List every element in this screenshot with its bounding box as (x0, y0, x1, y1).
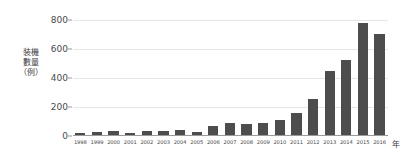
x-axis-tick-label: 2014 (338, 139, 355, 146)
bar (341, 60, 351, 135)
x-axis-tick-label: 2002 (139, 139, 156, 146)
bar-series (72, 20, 388, 135)
bar (225, 123, 235, 135)
x-axis-tick-label: 2003 (155, 139, 172, 146)
y-axis-tick-label: 600 (44, 44, 68, 54)
bar-slot (371, 20, 388, 135)
y-axis-tick-label: 800 (44, 15, 68, 25)
y-axis-tick-label: 0 (44, 131, 68, 141)
bar (325, 71, 335, 135)
bar-slot (89, 20, 106, 135)
bar (374, 34, 384, 135)
y-axis-line (72, 20, 73, 136)
y-axis-tick-label: 400 (44, 73, 68, 83)
y-axis-tick-labels: 0200400600800 (44, 0, 68, 160)
bar-slot (338, 20, 355, 135)
x-axis-tick-label: 2012 (305, 139, 322, 146)
y-axis-title: 装機 數量 （例） (14, 48, 48, 78)
x-axis-tick-label: 2004 (172, 139, 189, 146)
bar-slot (72, 20, 89, 135)
x-axis-title: 年 (392, 138, 400, 149)
x-axis-tick-label: 2015 (355, 139, 372, 146)
bar-slot (172, 20, 189, 135)
x-axis-tick-label: 2007 (222, 139, 239, 146)
y-axis-tick-label: 200 (44, 102, 68, 112)
bar-slot (205, 20, 222, 135)
y-axis-tick-mark (68, 107, 72, 108)
bar-slot (222, 20, 239, 135)
bar (291, 113, 301, 135)
x-axis-tick-label: 2009 (255, 139, 272, 146)
x-axis-tick-label: 2001 (122, 139, 139, 146)
y-axis-tick-mark (68, 49, 72, 50)
x-axis-line (72, 135, 388, 136)
bar-chart: 装機 數量 （例） 0200400600800 1998199920002001… (0, 0, 413, 160)
x-axis-tick-label: 2005 (188, 139, 205, 146)
bar-slot (188, 20, 205, 135)
bar-slot (255, 20, 272, 135)
bar (208, 126, 218, 135)
x-axis-tick-label: 2010 (272, 139, 289, 146)
bar (358, 23, 368, 135)
y-axis-tick-mark (68, 20, 72, 21)
y-axis-title-line-1: 装機 (14, 48, 48, 58)
bar (258, 123, 268, 135)
plot-area (72, 20, 388, 136)
bar-slot (355, 20, 372, 135)
x-axis-tick-label: 2006 (205, 139, 222, 146)
bar-slot (272, 20, 289, 135)
bar-slot (321, 20, 338, 135)
bar-slot (105, 20, 122, 135)
bar-slot (305, 20, 322, 135)
bar-slot (238, 20, 255, 135)
bar-slot (288, 20, 305, 135)
y-axis-tick-mark (68, 78, 72, 79)
x-axis-tick-label: 2013 (321, 139, 338, 146)
x-axis-tick-label: 1999 (89, 139, 106, 146)
x-axis-tick-labels: 1998199920002001200220032004200520062007… (72, 139, 388, 146)
bar (275, 120, 285, 135)
bar-slot (139, 20, 156, 135)
x-axis-tick-label: 2011 (288, 139, 305, 146)
y-axis-title-line-2: 數量 (14, 58, 48, 68)
bar-slot (155, 20, 172, 135)
y-axis-title-line-3: （例） (14, 68, 48, 78)
x-axis-tick-label: 2000 (105, 139, 122, 146)
x-axis-tick-label: 2008 (238, 139, 255, 146)
y-axis-tick-mark (68, 136, 72, 137)
x-axis-tick-label: 1998 (72, 139, 89, 146)
x-axis-tick-label: 2016 (371, 139, 388, 146)
bar (241, 124, 251, 135)
bar (308, 99, 318, 135)
bar-slot (122, 20, 139, 135)
